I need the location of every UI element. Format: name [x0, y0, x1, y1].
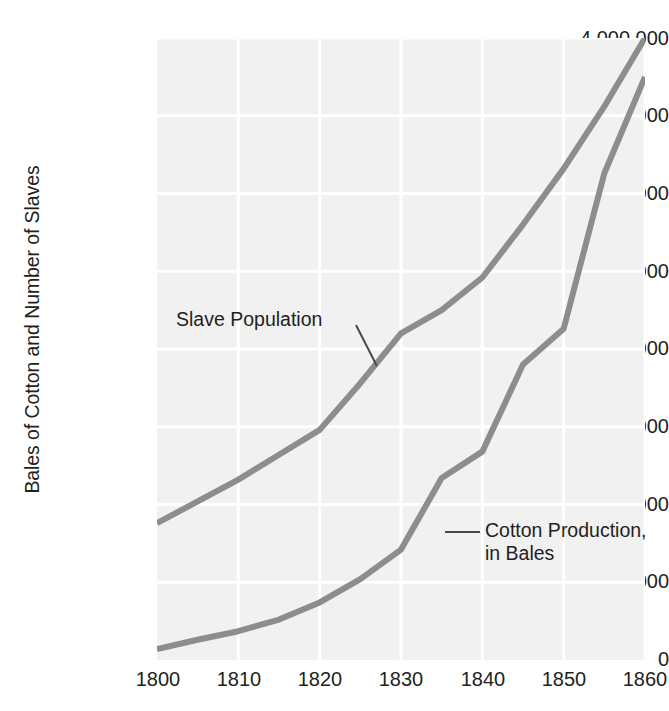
- annotation-cotton-line1: Cotton Production,: [485, 519, 647, 542]
- x-tick-label-1860: 1860: [600, 668, 669, 690]
- x-tick-label-1820: 1820: [275, 668, 365, 690]
- annotation-cotton-line2: in Bales: [485, 542, 647, 565]
- x-tick-label-1800: 1800: [113, 668, 203, 690]
- annotation-leader-line-cotton: [445, 531, 480, 533]
- x-tick-label-1830: 1830: [356, 668, 446, 690]
- annotation-slave-population: Slave Population: [176, 308, 322, 331]
- x-tick-label-1810: 1810: [194, 668, 284, 690]
- plot-area: [157, 38, 645, 660]
- y-axis-title: Bales of Cotton and Number of Slaves: [21, 110, 44, 550]
- x-tick-label-1840: 1840: [438, 668, 528, 690]
- x-tick-label-1850: 1850: [519, 668, 609, 690]
- chart-canvas: [157, 38, 645, 660]
- chart-figure: Bales of Cotton and Number of Slaves 4,0…: [0, 0, 669, 711]
- annotation-cotton-production: Cotton Production, in Bales: [485, 519, 647, 565]
